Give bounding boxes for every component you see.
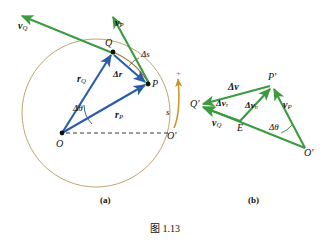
label-v-Q-b: vQ [212,118,221,129]
label-delta-s: Δs [141,50,150,59]
label-v-P-b: vP [283,100,292,111]
label-delta-r: Δr [113,70,122,79]
label-point-O-prime-a: O' [167,131,176,141]
label-delta-theta-a: Δθ [73,104,83,113]
panel-label-a: (a) [100,195,111,205]
vector-v-P-b [274,89,305,148]
label-delta-v-n: Δvn [245,101,258,110]
label-point-O-prime-b: O' [304,148,313,158]
vector-delta-v-tau [204,108,240,121]
point-P [146,82,151,87]
label-positive-sign: + [176,68,181,78]
panel-label-b: (b) [248,195,259,205]
label-arc-length-s: s [166,108,170,117]
figure-graphics [0,0,330,246]
label-point-O: O [56,139,63,149]
label-point-Q: Q [105,38,112,48]
figure-container: vQ vP Q P Δs rQ Δr rP Δθ O O' s + Δv P' … [0,0,330,246]
vector-r-Q [62,55,111,133]
figure-caption: 图 1.13 [0,220,330,235]
arc-positive-direction-s [174,79,179,128]
angle-arc-delta-theta-b [281,125,292,133]
label-point-E: E [237,123,243,133]
label-delta-v: Δv [228,82,239,92]
vector-v-Q-a [22,16,115,54]
label-v-P-a: vP [115,18,124,29]
label-delta-theta-b: Δθ [269,123,279,132]
label-v-Q-a: vQ [18,21,27,32]
point-O [60,131,65,136]
label-delta-v-tau: Δvτ [216,99,228,108]
point-Q [111,50,116,55]
label-point-P-prime: P' [268,72,276,82]
label-r-P: rP [115,110,123,121]
angle-arc-delta-theta-a [84,105,92,124]
label-point-Q-prime: Q' [190,99,199,109]
label-point-P: P [152,79,158,89]
label-r-Q: rQ [77,74,86,85]
